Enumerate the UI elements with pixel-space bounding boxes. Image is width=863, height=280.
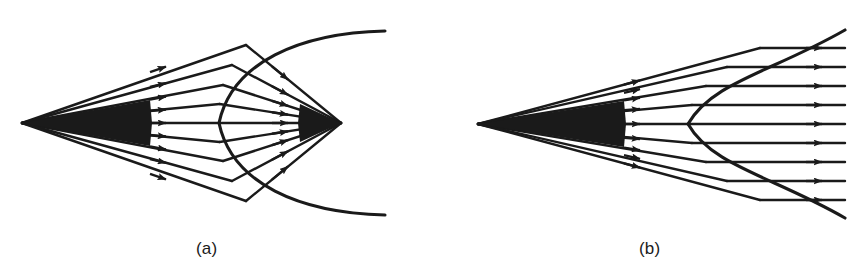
incident-arrow <box>624 80 640 84</box>
reflected-arrow <box>272 66 288 79</box>
reflected-arrow <box>272 166 288 179</box>
incident-arrow <box>624 138 640 139</box>
panel-a-source-wedge <box>22 100 152 146</box>
panel-b-caption: (b) <box>639 239 660 259</box>
panel-a-reflected-arrowheads <box>272 66 288 179</box>
incident-arrow <box>150 135 166 136</box>
panel-a-incident-arrowheads <box>150 67 166 180</box>
panel-b-emergent-arrowheads <box>806 48 822 200</box>
incident-arrow <box>150 97 166 100</box>
incident-arrow <box>150 147 166 150</box>
panel-a-caption: (a) <box>196 239 217 259</box>
panel-b-incident-arrowheads <box>624 80 640 167</box>
panel-b <box>478 30 845 218</box>
reflected-arrow <box>272 101 288 106</box>
figure-root: Ray diagrams for a point source with a c… <box>0 0 863 280</box>
incident-arrow <box>150 67 166 73</box>
reflected-arrow <box>272 112 288 115</box>
reflected-arrow <box>272 86 288 95</box>
incident-arrow <box>624 109 640 110</box>
incident-arrow <box>150 110 166 111</box>
incident-arrow <box>624 163 640 167</box>
ray-diagram-svg: Ray diagrams for a point source with a c… <box>0 0 863 280</box>
reflected-arrow <box>272 140 288 145</box>
panel-a-focus-wedge <box>298 104 341 142</box>
panel-a <box>22 31 385 215</box>
reflected-arrow <box>272 131 288 134</box>
reflected-arrow <box>272 151 288 160</box>
incident-arrow <box>150 174 166 180</box>
